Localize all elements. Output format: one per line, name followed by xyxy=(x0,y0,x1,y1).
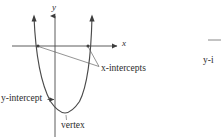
parabola-left-arrowhead xyxy=(32,15,37,22)
left-x-intercept-marker xyxy=(37,45,40,48)
y-axis-label: y xyxy=(52,3,56,12)
parabola-figure: x y x-intercepts y-intercept vertex y-i xyxy=(0,0,224,137)
parabola-right-arrowhead xyxy=(89,15,94,22)
vertex-label: vertex xyxy=(61,121,85,131)
x-axis-label: x xyxy=(122,39,126,48)
x-intercepts-label: x-intercepts xyxy=(101,64,146,74)
y-intercept-label: y-intercept xyxy=(1,94,42,104)
neighbor-figure-label-fragment: y-i xyxy=(203,56,214,66)
parabola-curve xyxy=(34,17,92,113)
